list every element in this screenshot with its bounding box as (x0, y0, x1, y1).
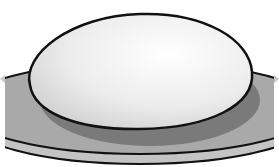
left-arrow-icon (0, 75, 5, 83)
dome (29, 14, 252, 129)
right-arrow-icon (274, 75, 279, 83)
dome-illustration (0, 0, 279, 167)
